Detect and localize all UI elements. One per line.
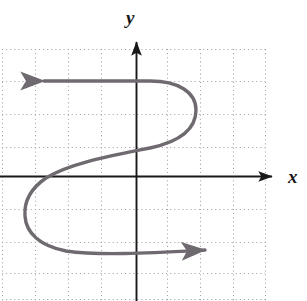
- s-curve-path: [25, 81, 205, 254]
- x-axis-label: x: [288, 167, 298, 186]
- grid: [2, 49, 266, 301]
- graph-figure: y x: [0, 0, 307, 301]
- y-axis-label: y: [126, 8, 134, 27]
- s-curve: [25, 81, 205, 254]
- coordinate-plane-svg: [0, 0, 307, 301]
